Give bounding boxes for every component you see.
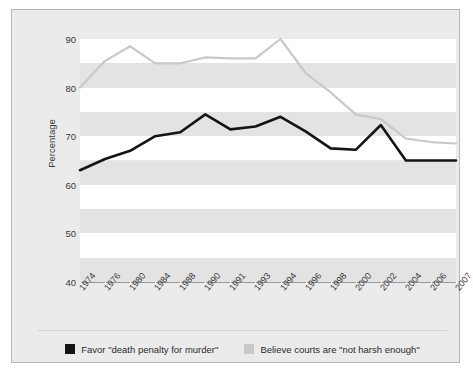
chart-legend: Favor "death penalty for murder"Believe …: [38, 339, 447, 359]
y-tick-label: 80: [65, 82, 76, 93]
legend-separator: [38, 330, 447, 331]
series-line-courts-not-harsh-enough: [80, 39, 456, 143]
y-tick-label: 70: [65, 131, 76, 142]
legend-label: Believe courts are "not harsh enough": [260, 344, 419, 355]
legend-item[interactable]: Favor "death penalty for murder": [65, 344, 218, 355]
legend-label: Favor "death penalty for murder": [81, 344, 218, 355]
y-tick-label: 50: [65, 228, 76, 239]
series-line-favor-death-penalty: [80, 114, 456, 170]
legend-item[interactable]: Believe courts are "not harsh enough": [244, 344, 419, 355]
plot-lines: [80, 39, 456, 282]
y-tick-label: 90: [65, 34, 76, 45]
chart-screenshot: 908070605040 Percentage 1974197619801984…: [0, 0, 473, 375]
plot-area: [80, 39, 456, 282]
chart-figure-frame: 908070605040 Percentage 1974197619801984…: [11, 9, 460, 363]
y-tick-label: 60: [65, 179, 76, 190]
x-axis-ticks: 1974197619801984198819901991199319941996…: [80, 282, 456, 324]
legend-swatch-gray: [244, 344, 254, 354]
legend-swatch-black: [65, 344, 75, 354]
y-tick-label: 40: [65, 277, 76, 288]
y-axis-label: Percentage: [46, 99, 57, 189]
x-tick-label: 2007: [453, 271, 473, 293]
